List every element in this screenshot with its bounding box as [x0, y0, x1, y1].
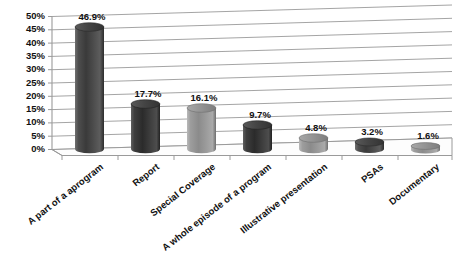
- chart-container: 50% 45% 40% 35% 30% 25% 20% 15% 10% 5% 0…: [0, 0, 462, 280]
- x-tick-label: A part of a aprogram: [25, 161, 105, 227]
- y-tick-label: 40%: [26, 37, 46, 48]
- data-label: 9.7%: [249, 109, 271, 120]
- bar-chart: 50% 45% 40% 35% 30% 25% 20% 15% 10% 5% 0…: [0, 0, 462, 280]
- bar-item[interactable]: [131, 100, 160, 154]
- bar-item[interactable]: [299, 134, 328, 154]
- x-axis-tick-labels: A part of a aprogram Report Special Cove…: [25, 160, 442, 252]
- y-tick-label: 5%: [31, 130, 45, 141]
- x-tick-label: PSAs: [359, 161, 385, 185]
- data-label: 17.7%: [135, 88, 162, 99]
- y-axis-tick-labels: 50% 45% 40% 35% 30% 25% 20% 15% 10% 5% 0…: [26, 10, 46, 154]
- bar-item[interactable]: [355, 138, 384, 153]
- data-label: 4.8%: [305, 122, 327, 133]
- y-tick-label: 30%: [26, 63, 46, 74]
- bar-item[interactable]: [187, 104, 216, 154]
- y-tick-label: 15%: [26, 103, 46, 114]
- y-tick-label: 35%: [26, 50, 46, 61]
- data-label: 16.1%: [191, 92, 218, 103]
- y-tick-label: 0%: [31, 143, 45, 154]
- data-label: 46.9%: [79, 11, 106, 22]
- data-label: 1.6%: [417, 130, 439, 141]
- x-tick-label: A whole episode of a program: [160, 161, 273, 253]
- y-tick-label: 10%: [26, 116, 46, 127]
- y-axis: [48, 17, 52, 150]
- y-tick-label: 25%: [26, 77, 46, 88]
- bar-item[interactable]: [243, 121, 272, 154]
- bar-item[interactable]: [411, 143, 440, 154]
- data-label: 3.2%: [361, 126, 383, 137]
- y-tick-label: 50%: [26, 10, 46, 21]
- bar-item[interactable]: [75, 23, 104, 154]
- y-tick-label: 20%: [26, 90, 46, 101]
- x-tick-label: Report: [130, 160, 162, 188]
- x-tick-label: Documentary: [387, 160, 442, 206]
- y-tick-label: 45%: [26, 23, 46, 34]
